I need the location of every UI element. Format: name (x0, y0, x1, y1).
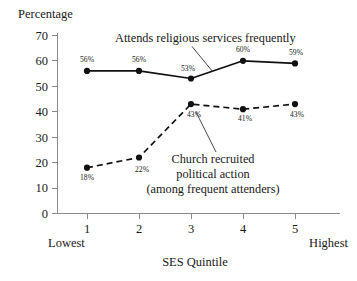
chart-container: Percentage 70 60 50 40 30 20 10 0 (0, 0, 357, 281)
data-point-label: 41% (238, 114, 253, 123)
data-point (84, 165, 90, 171)
x-tick-label: 3 (188, 222, 194, 236)
data-point (240, 58, 246, 64)
y-tick-label: 30 (36, 131, 49, 145)
x-axis-title: SES Quintile (162, 255, 228, 269)
data-point-label: 56% (132, 55, 147, 64)
data-point (292, 101, 298, 107)
y-tick-label: 10 (36, 181, 49, 195)
data-point-label: 53% (181, 64, 196, 73)
data-point-label: 59% (289, 48, 304, 57)
annotation-line-1: Church recruited (172, 152, 255, 166)
data-point (292, 60, 298, 66)
y-tick-label: 70 (36, 29, 49, 43)
line-chart: Percentage 70 60 50 40 30 20 10 0 (0, 0, 357, 281)
annotation-line-2: political action (176, 167, 249, 181)
data-point (84, 68, 90, 74)
x-tick-label: 4 (240, 222, 247, 236)
data-point-label: 43% (290, 110, 305, 119)
data-point (188, 75, 194, 81)
y-tick-label: 50 (36, 80, 49, 94)
data-point-label: 56% (80, 55, 95, 64)
data-point-label: 18% (80, 173, 95, 182)
y-tick-label: 20 (36, 156, 49, 170)
annotation-attends-religious-services: Attends religious services frequently (115, 31, 296, 45)
x-tick-label: 2 (136, 222, 142, 236)
y-tick-label: 40 (36, 105, 49, 119)
data-point (136, 154, 142, 160)
x-tick-label: 1 (84, 222, 90, 236)
data-point-label: 43% (187, 110, 202, 119)
x-axis-highest-label: Highest (309, 236, 348, 250)
annotation-line-3: (among frequent attenders) (146, 182, 279, 196)
data-point (136, 68, 142, 74)
data-point (240, 106, 246, 112)
data-point-label: 60% (236, 45, 251, 54)
y-tick-label: 0 (42, 207, 48, 221)
data-point-label: 22% (135, 165, 150, 174)
data-point (188, 101, 194, 107)
x-tick-label: 5 (292, 222, 298, 236)
y-axis-title: Percentage (18, 7, 73, 21)
y-tick-label: 60 (36, 54, 49, 68)
x-axis-lowest-label: Lowest (48, 236, 85, 250)
